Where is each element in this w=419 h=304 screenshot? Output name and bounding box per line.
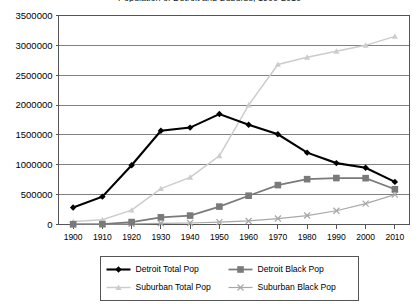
x-tick-label: 1970	[268, 232, 287, 242]
y-tick-label: 3000000	[16, 40, 53, 51]
x-tick-label: 1930	[151, 232, 170, 242]
series-suburban-total-pop	[70, 33, 398, 224]
data-point-marker	[392, 33, 398, 38]
data-point-marker	[333, 175, 340, 182]
data-point-marker	[237, 266, 244, 273]
y-tick-label: 3500000	[16, 10, 53, 21]
y-tick-label: 2500000	[16, 70, 53, 81]
data-point-marker	[275, 182, 282, 189]
series-line	[73, 114, 395, 207]
data-point-marker	[333, 160, 339, 166]
legend-item-detroit-black-pop[interactable]: Detroit Black Pop	[229, 264, 325, 274]
data-point-marker	[362, 175, 369, 182]
x-tick-label: 1940	[181, 232, 200, 242]
data-point-marker	[70, 204, 76, 210]
y-tick-label: 1500000	[16, 129, 53, 140]
y-tick-label: 500000	[21, 189, 53, 200]
x-tick-label: 1960	[239, 232, 258, 242]
data-point-marker	[70, 221, 77, 228]
x-tick-label: 1900	[64, 232, 83, 242]
series-suburban-black-pop	[70, 192, 398, 228]
legend-item-suburban-total-pop[interactable]: Suburban Total Pop	[107, 282, 212, 292]
legend-label: Detroit Black Pop	[258, 264, 325, 274]
x-tick-label: 1950	[210, 232, 229, 242]
legend-item-suburban-black-pop[interactable]: Suburban Black Pop	[229, 282, 337, 292]
series-line	[73, 195, 395, 225]
x-tick-label: 2010	[385, 232, 404, 242]
chart-canvas: 0500000100000015000002000000250000030000…	[0, 0, 419, 304]
series-detroit-black-pop	[70, 175, 398, 228]
y-tick-label: 2000000	[16, 99, 53, 110]
data-point-marker	[216, 111, 222, 117]
data-point-marker	[216, 203, 223, 210]
x-tick-label: 1910	[93, 232, 112, 242]
series-detroit-total-pop	[70, 111, 398, 211]
legend-item-detroit-total-pop[interactable]: Detroit Total Pop	[107, 264, 200, 274]
population-line-chart: Population of Detroit and Suburbs, 1900-…	[0, 0, 419, 304]
data-point-marker	[245, 122, 251, 128]
x-tick-label: 2000	[356, 232, 375, 242]
data-point-marker	[158, 214, 165, 221]
data-point-marker	[245, 192, 252, 199]
x-tick-label: 1990	[327, 232, 346, 242]
data-point-marker	[99, 221, 106, 228]
data-point-marker	[304, 176, 311, 183]
x-tick-label: 1980	[298, 232, 317, 242]
legend-label: Suburban Black Pop	[258, 282, 337, 292]
legend-label: Suburban Total Pop	[136, 282, 212, 292]
series-line	[73, 178, 395, 224]
x-tick-label: 1920	[122, 232, 141, 242]
y-tick-label: 0	[47, 219, 52, 230]
series-line	[73, 36, 395, 221]
data-point-marker	[115, 266, 121, 272]
data-point-marker	[187, 212, 194, 219]
data-point-marker	[392, 186, 399, 193]
y-tick-label: 1000000	[16, 159, 53, 170]
data-point-marker	[187, 124, 193, 130]
data-point-marker	[128, 219, 135, 226]
legend-label: Detroit Total Pop	[136, 264, 200, 274]
